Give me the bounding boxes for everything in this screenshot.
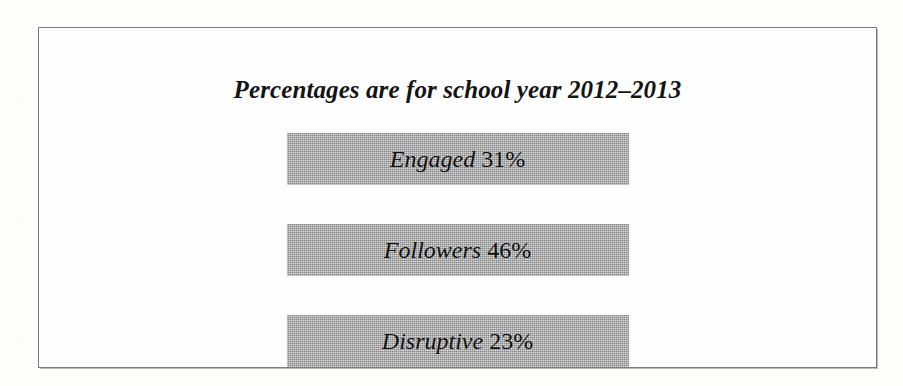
bar-value-followers: 46% [487, 237, 531, 263]
slide-frame: Percentages are for school year 2012–201… [38, 27, 877, 368]
bar-disruptive: Disruptive23% [287, 315, 629, 367]
slide-canvas: Percentages are for school year 2012–201… [0, 0, 903, 386]
bar-label-engaged: Engaged31% [390, 145, 525, 173]
bar-category-engaged: Engaged [390, 146, 475, 172]
bar-label-disruptive: Disruptive23% [382, 327, 533, 355]
bar-list: Engaged31% Followers46% Disruptive23% [39, 133, 876, 367]
bar-followers: Followers46% [287, 224, 629, 276]
bar-category-disruptive: Disruptive [382, 328, 483, 354]
bar-value-disruptive: 23% [489, 328, 533, 354]
bar-category-followers: Followers [384, 237, 481, 263]
chart-title: Percentages are for school year 2012–201… [39, 75, 876, 105]
bar-value-engaged: 31% [481, 146, 525, 172]
bar-engaged: Engaged31% [287, 133, 629, 185]
bar-label-followers: Followers46% [384, 236, 531, 264]
